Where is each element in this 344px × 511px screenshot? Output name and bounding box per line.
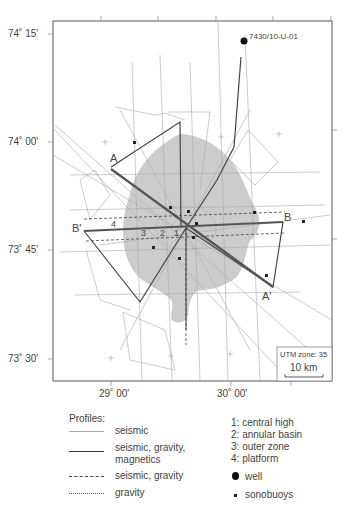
profile-label-a: A [110,152,118,164]
lat-label-73-45: 73˚ 45' [8,244,38,255]
legend-profiles-title: Profiles: [69,413,105,425]
zone-1-label: 1 [174,228,179,238]
zone-num: 2: [231,429,239,440]
legend-thin-line-icon [69,431,104,432]
zone-label: annular basin [242,429,302,440]
legend-zone-2: 2: annular basin [231,429,302,441]
zone-num: 3: [231,441,239,452]
legend-zone-1: 1: central high [231,417,294,429]
legend-dashed-line-icon [69,476,104,477]
lon-label-30-00: 30˚ 00' [217,388,247,399]
zone-2-label: 2 [160,228,165,238]
legend-seismic-gravity-label: seismic, gravity [115,470,183,482]
legend-thick-line-icon [69,451,104,452]
profile-label-b: B [284,211,291,223]
well-7430-icon [241,38,248,45]
utm-zone-label: UTM zone: 35 [280,350,327,359]
legend: Profiles: seismic seismic, gravity, magn… [0,400,344,511]
legend-sonobuoys-label: sonobuoys [245,489,293,501]
zone-label: platform [242,453,278,464]
well-label: 7430/10-U-01 [249,32,298,41]
legend-zone-4: 4: platform [231,453,278,465]
zone-3-label: 3 [141,228,146,238]
profile-label-b-prime: B' [72,222,81,234]
scale-bar-label: 10 km [290,362,317,373]
profile-label-a-prime: A' [262,290,271,302]
zone-label: outer zone [242,441,289,452]
well-dot-icon [232,472,239,480]
zone-num: 1: [231,417,239,428]
zone-num: 4: [231,453,239,464]
lat-label-74-15: 74˚ 15' [8,28,38,39]
lat-label-74-00: 74˚ 00' [8,136,38,147]
legend-gravity-label: gravity [115,487,144,499]
lon-label-29-00: 29˚ 00' [99,388,129,399]
lat-label-73-30: 73˚ 30' [8,353,38,364]
legend-dotted-line-icon [69,493,104,494]
legend-well-label: well [245,471,262,483]
legend-seismic-label: seismic [115,425,148,437]
zone-label: central high [242,417,294,428]
map-figure: 7430/10-U-01 A A' B B' 1 2 3 4 74˚ 15' 7… [0,0,344,400]
legend-seismic-gravity-magnetics-label: seismic, gravity, magnetics [115,442,185,466]
sonobuoy-square-icon [234,494,237,497]
legend-zone-3: 3: outer zone [231,441,289,453]
zone-4-label: 4 [111,219,116,229]
